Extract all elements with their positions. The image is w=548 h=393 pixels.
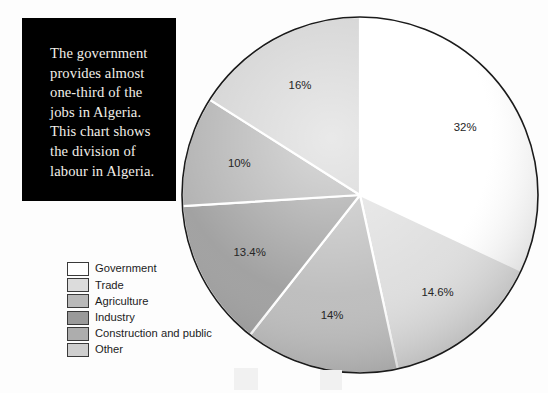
pie-slice-value-label: 14.6%	[421, 286, 453, 298]
legend-label: Other	[95, 344, 123, 355]
legend-label: Trade	[95, 280, 124, 291]
legend-label: Agriculture	[95, 296, 148, 307]
legend-item: Industry	[67, 310, 257, 326]
scan-artifact	[320, 370, 342, 390]
legend-label: Government	[95, 263, 157, 274]
pie-slice-value-label: 10%	[228, 157, 251, 169]
legend-label: Construction and public	[95, 328, 212, 339]
caption-text: The government provides almost one-third…	[50, 44, 162, 181]
legend-label: Industry	[95, 312, 135, 323]
legend-swatch	[67, 262, 89, 276]
pie-slice-value-label: 13.4%	[234, 246, 266, 258]
legend-swatch	[67, 278, 89, 292]
legend-swatch	[67, 294, 89, 308]
legend-item: Construction and public	[67, 326, 257, 342]
pie-slice-value-label: 14%	[321, 309, 344, 321]
legend-item: Trade	[67, 277, 257, 293]
legend-swatch	[67, 343, 89, 357]
legend-swatch	[67, 327, 89, 341]
chart-legend: GovernmentTradeAgricultureIndustryConstr…	[67, 261, 257, 358]
legend-item: Agriculture	[67, 293, 257, 309]
legend-swatch	[67, 311, 89, 325]
legend-item: Other	[67, 342, 257, 358]
scan-artifact	[234, 368, 258, 390]
pie-slice-value-label: 16%	[289, 79, 312, 91]
legend-item: Government	[67, 261, 257, 277]
caption-box: The government provides almost one-third…	[22, 18, 176, 201]
pie-slice-value-label: 32%	[454, 121, 477, 133]
